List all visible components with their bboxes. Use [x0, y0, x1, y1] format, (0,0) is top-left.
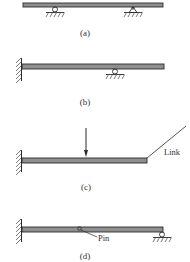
panel-a: (a): [23, 3, 163, 38]
panel-d: Pin (d): [16, 219, 172, 261]
fixed-wall-icon: [16, 219, 22, 244]
beam-b: [22, 64, 164, 69]
panel-label-d: (d): [80, 251, 91, 261]
fixed-wall-icon: [16, 58, 22, 83]
pin-support-icon: [124, 7, 143, 17]
panel-b: (b): [16, 58, 164, 107]
beam-a: [23, 3, 163, 7]
panel-label-a: (a): [80, 28, 90, 38]
panel-label-b: (b): [80, 97, 91, 107]
link-annotation: Link: [164, 147, 181, 157]
roller-support-icon: [46, 7, 65, 17]
beam-c: [22, 158, 147, 163]
roller-support-icon: [153, 232, 172, 242]
panel-label-c: (c): [81, 182, 91, 192]
pin-annotation: Pin: [98, 233, 110, 243]
point-load-arrow-icon: [84, 128, 88, 157]
roller-support-icon: [106, 69, 125, 79]
beam-d: [22, 227, 163, 232]
fixed-wall-icon: [16, 150, 22, 175]
panel-c: Link (c): [16, 126, 186, 192]
beam-diagram: (a) (b): [0, 0, 190, 262]
